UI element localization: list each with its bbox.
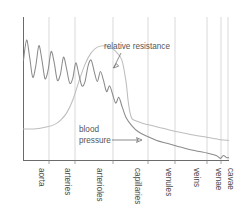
blood-pressure-label-line2: pressure — [79, 136, 111, 145]
blood-pressure-resistance-chart: relative resistance blood pressure aorta… — [0, 0, 245, 211]
axis-label-venae: venae — [214, 168, 223, 191]
axis-label-aorta: aorta — [37, 168, 46, 187]
chart-canvas: relative resistance blood pressure aorta… — [0, 0, 245, 211]
axis-label-arteries: arteries — [63, 168, 72, 195]
axis-label-arterioles: arterioles — [95, 168, 104, 202]
axis-label-cavae: cavae — [226, 168, 235, 190]
axis-label-capillaries: capillaries — [133, 168, 142, 204]
axis-label-veins: veins — [192, 168, 201, 187]
chart-background — [0, 0, 245, 211]
blood-pressure-label-line1: blood — [79, 125, 99, 134]
axis-label-venules: venules — [164, 168, 173, 196]
relative-resistance-label: relative resistance — [104, 42, 170, 51]
